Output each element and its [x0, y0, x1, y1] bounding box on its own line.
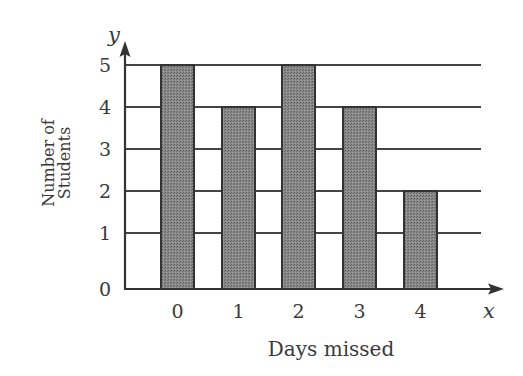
y-tick-1: 1	[99, 222, 111, 244]
y-tick-labels: 012345	[99, 54, 111, 300]
bar-4	[404, 191, 437, 289]
x-tick-2: 2	[292, 300, 304, 322]
x-axis-variable: x	[483, 299, 495, 323]
x-tick-0: 0	[171, 300, 183, 322]
bar-1	[222, 107, 255, 289]
bars	[161, 65, 437, 289]
x-tick-labels: 01234	[171, 300, 426, 322]
y-axis-label: Number of Students	[39, 118, 74, 207]
y-tick-4: 4	[99, 96, 111, 118]
bar-0	[161, 65, 194, 289]
y-tick-5: 5	[99, 54, 111, 76]
y-tick-0: 0	[99, 278, 111, 300]
y-axis-variable: y	[107, 23, 121, 47]
bar-2	[282, 65, 315, 289]
y-tick-3: 3	[99, 138, 111, 160]
bar-chart: 012345 01234 y x Days missed Number of S…	[0, 0, 523, 376]
x-tick-1: 1	[232, 300, 244, 322]
y-axis-label-line-2: Students	[55, 127, 74, 199]
x-axis-label: Days missed	[268, 337, 395, 361]
x-tick-3: 3	[353, 300, 365, 322]
bar-3	[343, 107, 376, 289]
x-tick-4: 4	[414, 300, 426, 322]
y-tick-2: 2	[99, 180, 111, 202]
